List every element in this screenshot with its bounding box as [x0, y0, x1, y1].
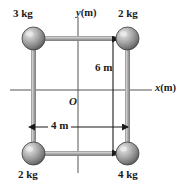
- diagram-canvas: [0, 0, 184, 187]
- mass-label-bottom-right: 4 kg: [118, 169, 138, 180]
- mass-sphere-top-right: [116, 27, 139, 50]
- x-axis-label-unit: (m): [160, 82, 176, 93]
- mass-label-top-left: 3 kg: [13, 8, 33, 19]
- rod-right: [125, 38, 130, 154]
- y-axis-label: y(m): [76, 8, 96, 19]
- dimension-label-height: 6 m: [95, 62, 112, 73]
- y-axis-label-unit: (m): [81, 7, 97, 18]
- mass-sphere-bottom-right: [116, 142, 139, 165]
- physics-diagram: 3 kg 2 kg 2 kg 4 kg y(m) x(m) O 6 m 4 m: [0, 0, 184, 187]
- x-axis-label: x(m): [155, 83, 176, 94]
- origin-label: O: [69, 96, 77, 107]
- mass-sphere-top-left: [22, 27, 45, 50]
- rod-bottom: [33, 151, 128, 156]
- rod-left: [31, 38, 36, 154]
- mass-sphere-bottom-left: [22, 142, 45, 165]
- rod-top: [33, 36, 128, 41]
- dimension-label-width: 4 m: [48, 120, 71, 131]
- mass-label-top-right: 2 kg: [118, 8, 138, 19]
- mass-label-bottom-left: 2 kg: [18, 169, 38, 180]
- frame-rods: [31, 36, 130, 156]
